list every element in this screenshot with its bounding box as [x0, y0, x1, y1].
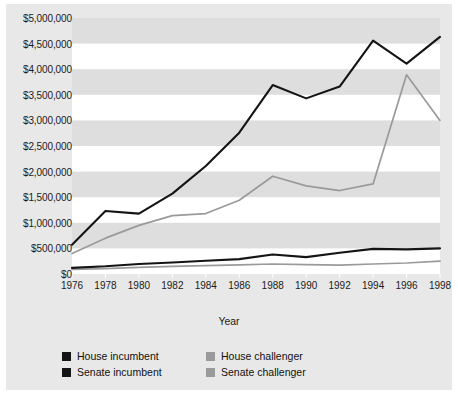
legend-item-label: Senate incumbent: [77, 366, 162, 378]
x-axis-tick-label: 1992: [329, 280, 351, 291]
legend-item: Senate incumbent: [62, 364, 190, 380]
legend-item-label: Senate challenger: [221, 366, 306, 378]
y-axis-tick-label: $5,000,000: [23, 13, 72, 24]
x-axis-tick-label: 1998: [429, 280, 451, 291]
x-axis-tick-label: 1986: [228, 280, 250, 291]
chart-figure: $5,000,000$4,500,000$4,000,000$3,500,000…: [6, 4, 452, 390]
legend-item-label: House incumbent: [77, 350, 159, 362]
x-axis-labels: 1976197819801982198419861988199019921994…: [6, 280, 452, 300]
x-axis-tick-label: 1994: [362, 280, 384, 291]
x-axis-tick-label: 1976: [61, 280, 83, 291]
chart-plot-area: [6, 4, 452, 390]
x-axis-tick-label: 1978: [94, 280, 116, 291]
legend-swatch-icon: [62, 368, 71, 377]
y-axis-tick-label: $500,000: [31, 243, 72, 254]
legend-item: House challenger: [206, 348, 334, 364]
chart-legend: House incumbentHouse challengerSenate in…: [62, 348, 392, 380]
legend-item: House incumbent: [62, 348, 190, 364]
y-axis-tick-label: $0: [61, 269, 72, 280]
legend-swatch-icon: [62, 352, 71, 361]
x-axis-tick-label: 1982: [161, 280, 183, 291]
legend-item: Senate challenger: [206, 364, 334, 380]
legend-item-label: House challenger: [221, 350, 303, 362]
y-axis-tick-label: $2,000,000: [23, 166, 72, 177]
legend-swatch-icon: [206, 368, 215, 377]
x-axis-tick-label: 1980: [128, 280, 150, 291]
x-axis-title: Year: [6, 315, 452, 327]
y-axis-tick-label: $3,500,000: [23, 89, 72, 100]
x-axis-tick-label: 1988: [262, 280, 284, 291]
y-axis-labels: $5,000,000$4,500,000$4,000,000$3,500,000…: [6, 4, 72, 390]
x-axis-tick-label: 1990: [295, 280, 317, 291]
y-axis-tick-label: $3,000,000: [23, 115, 72, 126]
legend-swatch-icon: [206, 352, 215, 361]
y-axis-tick-label: $4,500,000: [23, 38, 72, 49]
x-axis-tick-label: 1996: [395, 280, 417, 291]
axis-ticks: [72, 274, 440, 278]
x-axis-tick-label: 1984: [195, 280, 217, 291]
y-axis-tick-label: $2,500,000: [23, 141, 72, 152]
y-axis-tick-label: $1,000,000: [23, 217, 72, 228]
y-axis-tick-label: $4,000,000: [23, 64, 72, 75]
y-axis-tick-label: $1,500,000: [23, 192, 72, 203]
